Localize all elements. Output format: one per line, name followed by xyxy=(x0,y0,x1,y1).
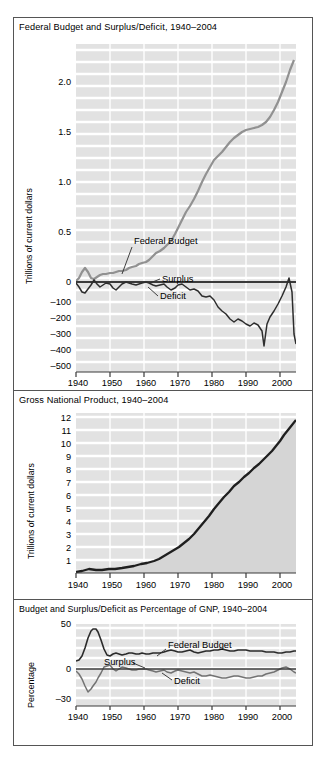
y-tick-gnp-8: 4 xyxy=(66,517,71,527)
panel-percentage: Budget and Surplus/Deficit as Percentage… xyxy=(14,600,312,745)
y-tick-budget-9: –500 xyxy=(51,361,71,371)
x-tick-gnp-4: 1980 xyxy=(204,580,224,590)
y-tick-gnp-1: 11 xyxy=(61,426,71,436)
y-tick-pct-1: 0 xyxy=(66,664,71,674)
y-tick-pct-2: –30 xyxy=(56,694,71,704)
figure-container: Federal Budget and Surplus/Deficit, 1940… xyxy=(13,17,313,746)
annotation-percentage-federal-budget: Federal Budget xyxy=(168,640,232,650)
y-tick-gnp-9: 3 xyxy=(66,530,71,540)
x-tick-gnp-2: 1960 xyxy=(136,580,156,590)
y-tick-gnp-0: 12 xyxy=(61,413,71,423)
y-tick-labels-budget: 2.0 1.5 1.0 0.5 0 –100 –200 –300 –400 –5… xyxy=(51,77,71,371)
y-tick-pct-0: 50 xyxy=(61,619,71,629)
plot-federal-budget: Trillions of current dollars xyxy=(14,34,312,386)
x-tick-gnp-1: 1950 xyxy=(102,580,122,590)
x-tick-gnp-6: 2000 xyxy=(272,580,292,590)
y-tick-gnp-6: 6 xyxy=(66,491,71,501)
x-tick-pct-5: 1990 xyxy=(238,712,258,722)
annotation-percentage-surplus: Surplus xyxy=(104,657,136,667)
panel-title-budget: Federal Budget and Surplus/Deficit, 1940… xyxy=(14,18,312,34)
y-tick-budget-7: –300 xyxy=(51,329,71,339)
x-axis-ticks-budget xyxy=(76,372,280,377)
x-tick-budget-1: 1950 xyxy=(102,378,122,386)
y-tick-budget-2: 1.0 xyxy=(58,177,71,187)
y-axis-label-percentage: Percentage xyxy=(26,662,36,708)
x-tick-pct-0: 1940 xyxy=(68,712,88,722)
x-tick-budget-5: 1990 xyxy=(238,378,258,386)
x-tick-pct-2: 1960 xyxy=(136,712,156,722)
x-tick-pct-4: 1980 xyxy=(204,712,224,722)
chart-svg-percentage: Federal Budget Surplus Deficit 50 0 –30 xyxy=(14,616,314,744)
panel-gnp: Gross National Product, 1940–2004 Trilli… xyxy=(14,391,312,599)
x-tick-labels-gnp: 1940 1950 1960 1970 1980 1990 2000 xyxy=(68,580,292,590)
x-tick-pct-6: 2000 xyxy=(272,712,292,722)
y-tick-gnp-5: 7 xyxy=(66,478,71,488)
x-tick-budget-4: 1980 xyxy=(204,378,224,386)
annotation-surplus: Surplus xyxy=(162,274,194,284)
y-tick-budget-0: 2.0 xyxy=(58,77,71,87)
gridlines-horizontal-budget xyxy=(76,50,296,362)
chart-svg-budget: Federal Budget Surplus Deficit 2.0 1.5 1… xyxy=(14,34,314,386)
panel-title-gnp: Gross National Product, 1940–2004 xyxy=(14,391,312,407)
plot-gnp: Trillions of current dollars xyxy=(14,407,312,599)
y-tick-gnp-10: 2 xyxy=(66,543,71,553)
plot-background-budget xyxy=(76,44,296,372)
x-tick-budget-2: 1960 xyxy=(136,378,156,386)
x-tick-gnp-3: 1970 xyxy=(170,580,190,590)
y-tick-labels-percentage: 50 0 –30 xyxy=(56,619,71,704)
y-tick-budget-4: 0 xyxy=(66,277,71,287)
annotation-deficit: Deficit xyxy=(160,291,186,301)
y-tick-budget-8: –400 xyxy=(51,345,71,355)
x-tick-budget-3: 1970 xyxy=(170,378,190,386)
y-tick-budget-5: –100 xyxy=(51,297,71,307)
annotation-federal-budget: Federal Budget xyxy=(134,236,198,246)
x-tick-budget-0: 1940 xyxy=(68,378,88,386)
x-tick-labels-budget: 1940 1950 1960 1970 1980 1990 2000 xyxy=(68,378,292,386)
y-tick-labels-gnp: 12 11 10 9 8 7 6 5 4 3 2 1 xyxy=(61,413,71,566)
x-tick-budget-6: 2000 xyxy=(272,378,292,386)
panel-title-percentage: Budget and Surplus/Deficit as Percentage… xyxy=(14,600,312,616)
y-tick-budget-1: 1.5 xyxy=(58,127,71,137)
plot-percentage: Percentage xyxy=(14,616,312,744)
x-tick-pct-3: 1970 xyxy=(170,712,190,722)
y-tick-budget-6: –200 xyxy=(51,313,71,323)
y-tick-gnp-3: 9 xyxy=(66,452,71,462)
y-axis-label-gnp: Trillions of current dollars xyxy=(26,463,36,559)
x-tick-labels-percentage: 1940 1950 1960 1970 1980 1990 2000 xyxy=(68,712,292,722)
x-tick-gnp-0: 1940 xyxy=(68,580,88,590)
x-axis-ticks-gnp xyxy=(76,573,280,578)
x-tick-gnp-5: 1990 xyxy=(238,580,258,590)
chart-svg-gnp: 12 11 10 9 8 7 6 5 4 3 2 1 xyxy=(14,407,314,599)
y-tick-gnp-4: 8 xyxy=(66,465,71,475)
x-tick-pct-1: 1950 xyxy=(102,712,122,722)
y-tick-gnp-7: 5 xyxy=(66,504,71,514)
y-tick-gnp-2: 10 xyxy=(61,439,71,449)
panel-federal-budget: Federal Budget and Surplus/Deficit, 1940… xyxy=(14,18,312,390)
y-axis-label-budget: Trillions of current dollars xyxy=(24,188,34,284)
annotation-percentage-deficit: Deficit xyxy=(174,676,200,686)
y-tick-gnp-11: 1 xyxy=(66,556,71,566)
y-tick-budget-3: 0.5 xyxy=(58,227,71,237)
